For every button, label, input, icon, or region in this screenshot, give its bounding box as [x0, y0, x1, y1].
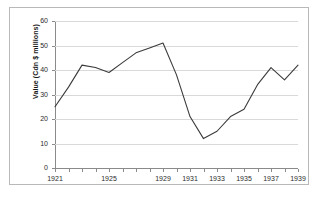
x-tick-mark-1937	[271, 169, 272, 172]
y-tick-label-50: 50	[22, 42, 48, 49]
x-tick-mark-1936	[258, 169, 259, 172]
y-tick-label-10: 10	[22, 140, 48, 147]
x-tick-mark-1930	[177, 169, 178, 172]
line-series-value	[55, 21, 298, 169]
x-tick-mark-1938	[285, 169, 286, 172]
x-tick-mark-1924	[96, 169, 97, 172]
y-tick-label-40: 40	[22, 66, 48, 73]
series-polyline	[55, 43, 298, 139]
y-tick-label-60: 60	[22, 17, 48, 24]
x-tick-mark-1935	[244, 169, 245, 172]
x-tick-mark-1921	[55, 169, 56, 172]
chart-figure-frame: Value (Cdn $ millions) 0102030405060 192…	[9, 7, 309, 185]
x-tick-mark-1927	[136, 169, 137, 172]
x-tick-label-1925: 1925	[94, 175, 124, 182]
x-tick-mark-1934	[231, 169, 232, 172]
x-tick-mark-1928	[150, 169, 151, 172]
x-tick-mark-1933	[217, 169, 218, 172]
y-tick-label-30: 30	[22, 91, 48, 98]
x-tick-mark-1931	[190, 169, 191, 172]
y-tick-label-20: 20	[22, 115, 48, 122]
x-tick-mark-1932	[204, 169, 205, 172]
x-tick-label-1921: 1921	[40, 175, 70, 182]
x-tick-mark-1923	[82, 169, 83, 172]
x-tick-label-1929: 1929	[148, 175, 178, 182]
x-tick-label-1933: 1933	[202, 175, 232, 182]
x-tick-label-1939: 1939	[283, 175, 313, 182]
x-tick-label-1931: 1931	[175, 175, 205, 182]
x-tick-mark-1922	[69, 169, 70, 172]
x-tick-label-1937: 1937	[256, 175, 286, 182]
x-tick-mark-1925	[109, 169, 110, 172]
y-tick-label-0: 0	[22, 164, 48, 171]
x-tick-mark-1929	[163, 169, 164, 172]
x-tick-label-1935: 1935	[229, 175, 259, 182]
x-tick-mark-1926	[123, 169, 124, 172]
x-tick-mark-1939	[298, 169, 299, 172]
